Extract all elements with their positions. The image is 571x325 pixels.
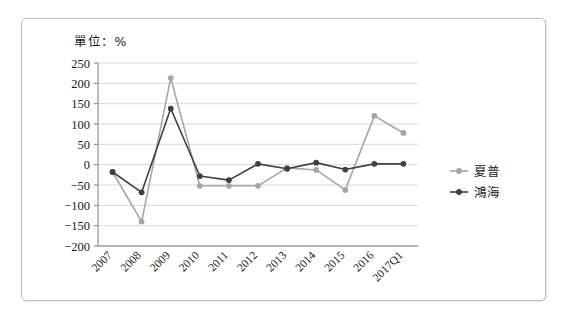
y-axis-label: 50 <box>78 138 91 152</box>
x-axis-label: 2011 <box>206 249 231 274</box>
legend-marker <box>456 189 462 195</box>
line-chart-svg: 250200150100500−50−100−150−2002007200820… <box>22 19 547 302</box>
data-point <box>313 167 319 173</box>
legend-marker <box>456 168 462 174</box>
x-axis-label: 2008 <box>118 249 143 274</box>
data-point <box>226 183 232 189</box>
y-axis-label: −100 <box>64 199 90 213</box>
legend-label[interactable]: 夏普 <box>474 164 500 179</box>
data-point <box>255 161 261 167</box>
x-axis-label: 2014 <box>293 249 318 274</box>
x-axis-label: 2017Q1 <box>370 249 405 284</box>
y-axis-label: 100 <box>71 118 90 132</box>
x-axis-label: 2013 <box>264 249 289 274</box>
data-point <box>284 166 290 172</box>
data-point <box>139 219 145 225</box>
x-axis-label: 2009 <box>147 249 172 274</box>
x-axis-label: 2015 <box>322 249 347 274</box>
y-axis-label: −150 <box>64 219 90 233</box>
data-point <box>168 106 174 112</box>
y-axis-label: 0 <box>84 158 90 172</box>
x-axis-label: 2007 <box>89 249 114 274</box>
data-point <box>255 183 261 189</box>
y-axis-label: −200 <box>64 240 90 254</box>
data-point <box>197 173 203 179</box>
data-point <box>401 161 407 167</box>
x-axis-label: 2016 <box>351 249 376 274</box>
data-point <box>371 113 377 119</box>
chart-plot-area: 250200150100500−50−100−150−2002007200820… <box>22 19 547 302</box>
y-axis-label: 200 <box>71 77 90 91</box>
data-point <box>168 75 174 81</box>
data-point <box>342 167 348 173</box>
legend-label[interactable]: 鴻海 <box>474 185 500 200</box>
y-axis-label: 250 <box>71 57 90 71</box>
data-point <box>313 160 319 166</box>
data-point <box>342 187 348 193</box>
data-point <box>226 177 232 183</box>
data-point <box>139 189 145 195</box>
x-axis-label: 2010 <box>176 249 201 274</box>
data-point <box>371 161 377 167</box>
chart-card: 單位：% 250200150100500−50−100−150−20020072… <box>21 18 546 301</box>
x-axis-label: 2012 <box>235 249 260 274</box>
data-point <box>110 169 116 175</box>
y-axis-label: 150 <box>71 97 90 111</box>
data-point <box>401 130 407 136</box>
data-point <box>197 183 203 189</box>
y-axis-label: −50 <box>70 179 90 193</box>
series-line-1 <box>113 109 404 193</box>
